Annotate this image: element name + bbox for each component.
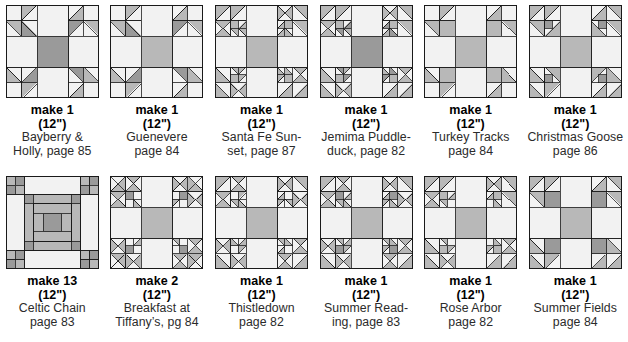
block-name-line: page 82 (209, 316, 313, 330)
quilt-block-breakfast-at-tiffanys (110, 176, 203, 269)
quilt-block-jemima-puddleduck (320, 5, 413, 98)
make-count: make 1 (314, 275, 418, 289)
block-cell-summer-reading: make 1(12")Summer Read-ing, page 83 (314, 171, 419, 342)
block-caption-jemima-puddleduck: make 1(12")Jemima Puddle-duck, page 82 (314, 104, 418, 158)
block-name-line: duck, page 82 (314, 145, 418, 159)
block-size: (12") (105, 289, 209, 303)
quilt-block-turkey-tracks (424, 5, 517, 98)
block-name: Thistledownpage 82 (209, 302, 313, 329)
block-name-line: Guenevere (105, 131, 209, 145)
block-caption-bayberry-holly: make 1(12")Bayberry &Holly, page 85 (0, 104, 104, 158)
quilt-block-santa-fe-sunset (215, 5, 308, 98)
block-size: (12") (419, 118, 523, 132)
block-caption-rose-arbor: make 1(12")Rose Arborpage 82 (419, 275, 523, 329)
block-name-line: page 84 (419, 145, 523, 159)
block-name-line: set, page 87 (209, 145, 313, 159)
make-count: make 1 (0, 104, 104, 118)
block-size: (12") (209, 289, 313, 303)
block-cell-celtic-chain: make 13(12")Celtic Chainpage 83 (0, 171, 105, 342)
quilt-block-thistledown (215, 176, 308, 269)
block-size: (12") (0, 289, 104, 303)
block-name-line: ing, page 83 (314, 316, 418, 330)
block-caption-breakfast-at-tiffanys: make 2(12")Breakfast atTiffany’s, pg 84 (105, 275, 209, 329)
block-name-line: Summer Read- (314, 302, 418, 316)
block-name-line: Christmas Goose (523, 131, 627, 145)
make-count: make 1 (209, 275, 313, 289)
block-name-line: Bayberry & (0, 131, 104, 145)
block-name: Christmas Goosepage 86 (523, 131, 627, 158)
block-name-line: Rose Arbor (419, 302, 523, 316)
block-name: Summer Fieldspage 84 (523, 302, 627, 329)
block-grid: make 1(12")Bayberry &Holly, page 85make … (0, 0, 628, 342)
block-caption-santa-fe-sunset: make 1(12")Santa Fe Sun-set, page 87 (209, 104, 313, 158)
block-size: (12") (314, 118, 418, 132)
block-name: Summer Read-ing, page 83 (314, 302, 418, 329)
block-caption-summer-fields: make 1(12")Summer Fieldspage 84 (523, 275, 627, 329)
block-name-line: page 83 (0, 316, 104, 330)
make-count: make 1 (523, 104, 627, 118)
block-name-line: Breakfast at (105, 302, 209, 316)
block-cell-jemima-puddleduck: make 1(12")Jemima Puddle-duck, page 82 (314, 0, 419, 171)
block-name-line: Tiffany’s, pg 84 (105, 316, 209, 330)
quilt-block-guenevere (110, 5, 203, 98)
block-cell-santa-fe-sunset: make 1(12")Santa Fe Sun-set, page 87 (209, 0, 314, 171)
block-name-line: page 84 (523, 316, 627, 330)
block-size: (12") (0, 118, 104, 132)
block-name: Rose Arborpage 82 (419, 302, 523, 329)
block-caption-christmas-goose: make 1(12")Christmas Goosepage 86 (523, 104, 627, 158)
block-name-line: page 82 (419, 316, 523, 330)
block-cell-thistledown: make 1(12")Thistledownpage 82 (209, 171, 314, 342)
make-count: make 1 (209, 104, 313, 118)
block-caption-celtic-chain: make 13(12")Celtic Chainpage 83 (0, 275, 104, 329)
block-name: Celtic Chainpage 83 (0, 302, 104, 329)
block-name: Breakfast atTiffany’s, pg 84 (105, 302, 209, 329)
quilt-block-celtic-chain (6, 176, 99, 269)
block-size: (12") (523, 289, 627, 303)
block-name-line: Thistledown (209, 302, 313, 316)
block-size: (12") (419, 289, 523, 303)
block-cell-rose-arbor: make 1(12")Rose Arborpage 82 (418, 171, 523, 342)
block-size: (12") (523, 118, 627, 132)
block-name: Santa Fe Sun-set, page 87 (209, 131, 313, 158)
quilt-block-summer-fields (529, 176, 622, 269)
quilt-block-chart: make 1(12")Bayberry &Holly, page 85make … (0, 0, 628, 342)
block-name: Bayberry &Holly, page 85 (0, 131, 104, 158)
block-name-line: Summer Fields (523, 302, 627, 316)
block-name-line: Celtic Chain (0, 302, 104, 316)
block-name-line: Holly, page 85 (0, 145, 104, 159)
block-caption-turkey-tracks: make 1(12")Turkey Trackspage 84 (419, 104, 523, 158)
block-name-line: Santa Fe Sun- (209, 131, 313, 145)
block-caption-guenevere: make 1(12")Gueneverepage 84 (105, 104, 209, 158)
block-caption-thistledown: make 1(12")Thistledownpage 82 (209, 275, 313, 329)
block-name-line: page 84 (105, 145, 209, 159)
block-cell-summer-fields: make 1(12")Summer Fieldspage 84 (523, 171, 628, 342)
block-caption-summer-reading: make 1(12")Summer Read-ing, page 83 (314, 275, 418, 329)
quilt-block-rose-arbor (424, 176, 517, 269)
quilt-block-summer-reading (320, 176, 413, 269)
make-count: make 13 (0, 275, 104, 289)
block-cell-guenevere: make 1(12")Gueneverepage 84 (105, 0, 210, 171)
make-count: make 1 (419, 104, 523, 118)
block-size: (12") (105, 118, 209, 132)
block-cell-bayberry-holly: make 1(12")Bayberry &Holly, page 85 (0, 0, 105, 171)
block-cell-christmas-goose: make 1(12")Christmas Goosepage 86 (523, 0, 628, 171)
make-count: make 2 (105, 275, 209, 289)
block-size: (12") (209, 118, 313, 132)
block-name: Jemima Puddle-duck, page 82 (314, 131, 418, 158)
block-size: (12") (314, 289, 418, 303)
make-count: make 1 (523, 275, 627, 289)
block-name: Turkey Trackspage 84 (419, 131, 523, 158)
make-count: make 1 (419, 275, 523, 289)
block-name-line: page 86 (523, 145, 627, 159)
make-count: make 1 (314, 104, 418, 118)
quilt-block-christmas-goose (529, 5, 622, 98)
block-cell-breakfast-at-tiffanys: make 2(12")Breakfast atTiffany’s, pg 84 (105, 171, 210, 342)
block-name-line: Turkey Tracks (419, 131, 523, 145)
make-count: make 1 (105, 104, 209, 118)
quilt-block-bayberry-holly (6, 5, 99, 98)
block-name-line: Jemima Puddle- (314, 131, 418, 145)
block-name: Gueneverepage 84 (105, 131, 209, 158)
block-cell-turkey-tracks: make 1(12")Turkey Trackspage 84 (418, 0, 523, 171)
